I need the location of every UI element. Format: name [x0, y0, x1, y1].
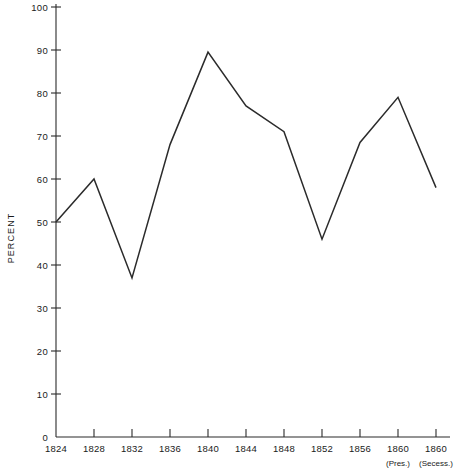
- x-axis-sublabels: (Pres.) (Secess.): [386, 459, 453, 468]
- x-sublabel-secess: (Secess.): [419, 459, 453, 468]
- x-tick-label-2: 1832: [121, 443, 143, 454]
- x-tick-label-5: 1844: [235, 443, 257, 454]
- y-tick-label-10: 10: [37, 389, 48, 400]
- y-tick-label-20: 20: [37, 346, 48, 357]
- x-sublabel-pres: (Pres.): [386, 459, 410, 468]
- y-tick-label-40: 40: [37, 260, 48, 271]
- x-axis-tick-labels: 1824 1828 1832 1836 1840 1844 1848 1852 …: [45, 443, 447, 454]
- y-tick-label-0: 0: [42, 432, 48, 443]
- x-tick-label-3: 1836: [159, 443, 181, 454]
- data-series-line: [56, 52, 436, 278]
- line-chart-plot: PERCENT 100 90 80 70 60 50 40 30 20 10 0: [0, 0, 454, 475]
- y-tick-label-100: 100: [31, 2, 48, 13]
- x-tick-label-1: 1828: [83, 443, 105, 454]
- x-tick-label-8: 1856: [349, 443, 371, 454]
- x-tick-label-4: 1840: [197, 443, 219, 454]
- y-tick-label-30: 30: [37, 303, 48, 314]
- y-tick-label-90: 90: [37, 45, 48, 56]
- x-tick-label-10: 1860: [425, 443, 447, 454]
- y-axis-tick-labels: 100 90 80 70 60 50 40 30 20 10 0: [31, 2, 48, 443]
- chart-container: PERCENT 100 90 80 70 60 50 40 30 20 10 0: [0, 0, 454, 475]
- y-tick-label-70: 70: [37, 131, 48, 142]
- y-tick-label-80: 80: [37, 88, 48, 99]
- x-tick-label-6: 1848: [273, 443, 295, 454]
- x-tick-label-9: 1860: [387, 443, 409, 454]
- y-tick-label-60: 60: [37, 174, 48, 185]
- y-axis-title: PERCENT: [6, 213, 16, 264]
- y-tick-label-50: 50: [37, 217, 48, 228]
- x-tick-label-7: 1852: [311, 443, 333, 454]
- x-tick-label-0: 1824: [45, 443, 67, 454]
- x-axis-ticks: [94, 429, 436, 437]
